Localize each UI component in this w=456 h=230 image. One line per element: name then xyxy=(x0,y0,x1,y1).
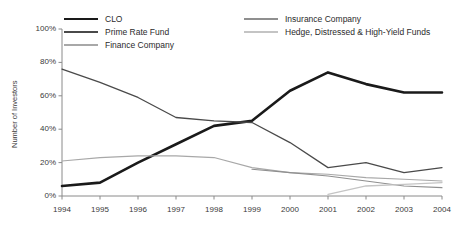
series-line-hedge-distressed-high-yield-funds xyxy=(328,183,442,195)
plot-area xyxy=(0,0,456,230)
line-chart: CLOPrime Rate FundFinance CompanyInsuran… xyxy=(0,0,456,230)
series-line-insurance-company xyxy=(252,169,442,187)
series-line-finance-company xyxy=(62,156,442,181)
